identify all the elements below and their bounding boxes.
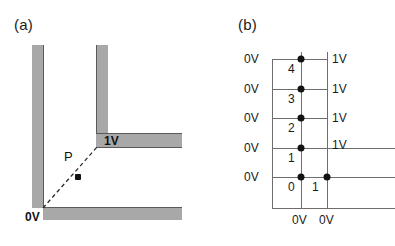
grid-horizontal-line-base <box>272 208 395 209</box>
figure-canvas: (a) P 0V 1V (b) <box>0 0 395 246</box>
node-number-label: 4 <box>288 62 295 76</box>
panel-b: (b) 0V 0V 0V 0V 0V 1V 1V 1V 1V 4 3 2 <box>200 0 395 246</box>
node-number-label: 1 <box>312 180 319 194</box>
left-boundary-label: 0V <box>244 111 259 125</box>
node-marker <box>324 174 331 181</box>
right-boundary-label: 1V <box>332 111 347 125</box>
node-marker <box>298 145 305 152</box>
left-boundary-label: 0V <box>244 141 259 155</box>
panel-a: (a) P 0V 1V <box>0 0 200 246</box>
grid-vertical-line-middle <box>301 52 302 209</box>
point-p-label: P <box>64 149 73 164</box>
inner-electrode-voltage-label: 1V <box>104 134 119 148</box>
point-p-marker <box>75 174 81 180</box>
node-marker <box>298 115 305 122</box>
grid-vertical-line-right <box>327 52 328 209</box>
outer-electrode-voltage-label: 0V <box>25 210 40 224</box>
bottom-boundary-label: 0V <box>319 213 334 227</box>
left-boundary-label: 0V <box>244 82 259 96</box>
right-boundary-label: 1V <box>332 138 347 152</box>
panel-b-label: (b) <box>238 16 257 33</box>
bottom-boundary-label: 0V <box>292 213 307 227</box>
node-marker <box>298 86 305 93</box>
node-number-label: 0 <box>288 180 295 194</box>
grid-horizontal-line-1 <box>272 177 395 178</box>
node-marker <box>298 56 305 63</box>
node-marker <box>298 174 305 181</box>
node-number-label: 3 <box>288 92 295 106</box>
node-number-label: 1 <box>288 151 295 165</box>
right-boundary-label: 1V <box>332 52 347 66</box>
grid-vertical-line-left <box>272 59 273 209</box>
left-boundary-label: 0V <box>244 170 259 184</box>
left-boundary-label: 0V <box>244 52 259 66</box>
node-number-label: 2 <box>288 121 295 135</box>
right-boundary-label: 1V <box>332 82 347 96</box>
